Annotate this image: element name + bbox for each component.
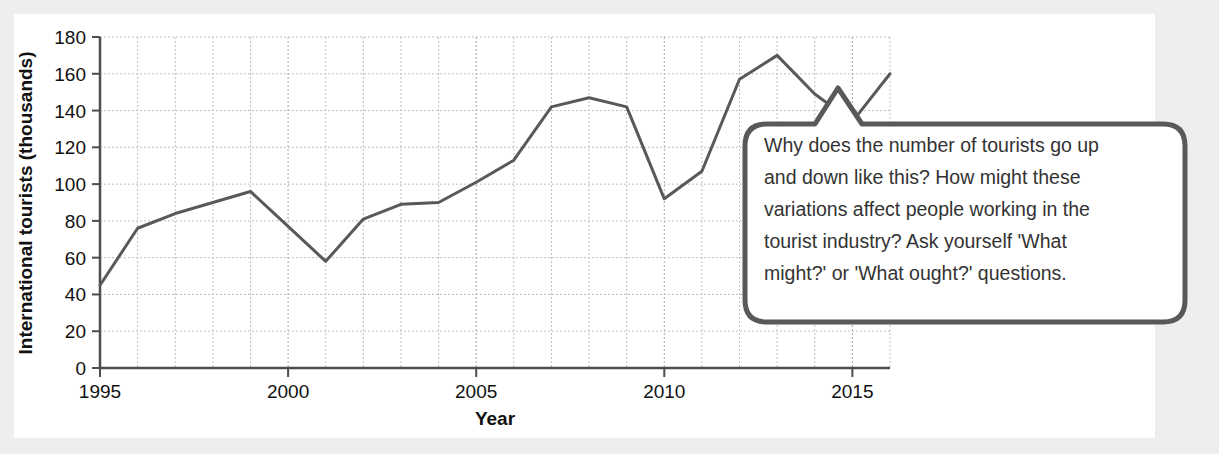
x-axis-title: Year	[475, 408, 516, 429]
x-axis-tick-labels: 19952000200520102015	[79, 381, 874, 402]
y-tick-label: 100	[54, 174, 86, 195]
callout-text-line: tourist industry? Ask yourself 'What	[764, 230, 1067, 252]
y-tick-label: 60	[65, 248, 86, 269]
callout-bubble: Why does the number of tourists go upand…	[745, 88, 1185, 322]
callout-text-line: variations affect people working in the	[764, 198, 1090, 220]
y-axis-title: International tourists (thousands)	[15, 52, 36, 355]
x-tick-label: 2005	[455, 381, 497, 402]
callout-text-line: Why does the number of tourists go up	[764, 134, 1099, 156]
y-tick-label: 180	[54, 27, 86, 48]
y-tick-label: 40	[65, 284, 86, 305]
y-tick-label: 140	[54, 101, 86, 122]
callout-text-line: might?' or 'What ought?' questions.	[764, 262, 1067, 284]
x-tick-label: 2010	[643, 381, 685, 402]
y-axis-tick-labels: 020406080100120140160180	[54, 27, 86, 379]
y-tick-label: 20	[65, 321, 86, 342]
x-tick-label: 2015	[831, 381, 873, 402]
y-tick-label: 0	[75, 358, 86, 379]
line-chart: 020406080100120140160180 199520002005201…	[0, 0, 1219, 454]
x-tick-label: 2000	[267, 381, 309, 402]
y-tick-label: 160	[54, 64, 86, 85]
figure-stage: 020406080100120140160180 199520002005201…	[0, 0, 1219, 454]
y-tick-label: 120	[54, 137, 86, 158]
x-axis-tick-marks	[100, 368, 852, 377]
callout-text-line: and down like this? How might these	[764, 166, 1081, 188]
y-tick-label: 80	[65, 211, 86, 232]
x-tick-label: 1995	[79, 381, 121, 402]
